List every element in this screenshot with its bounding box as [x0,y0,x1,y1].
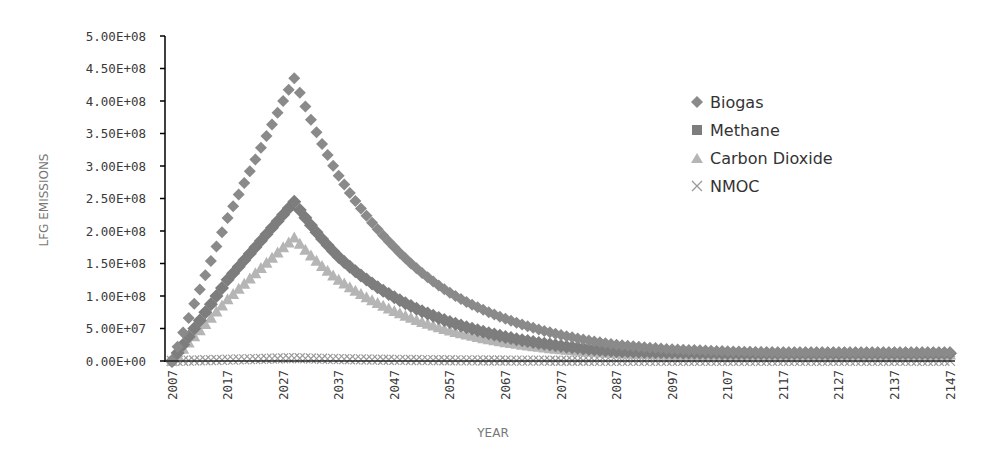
y-tick-label: 3.50E+08 [86,126,146,141]
data-point [227,200,239,212]
y-axis-title: LFG EMISSIONS [37,154,51,247]
y-tick-label: 2.50E+08 [86,191,146,206]
x-tick-label: 2087 [609,370,624,400]
diamond-icon [690,95,704,109]
data-point [400,355,410,365]
data-point [272,107,284,119]
y-tick-label: 2.00E+08 [86,224,146,239]
x-ticks: 2007201720272037204720572067207720872097… [165,370,958,400]
data-point [250,354,260,364]
y-tick-label: 0.00E+00 [86,354,146,369]
data-point [200,355,210,365]
x-tick-label: 2127 [831,370,846,400]
data-point [317,354,327,364]
data-point [367,355,377,365]
data-point [306,353,316,363]
legend-item-carbon-dioxide: Carbon Dioxide [690,144,833,172]
data-point [406,355,416,365]
data-point [322,149,334,161]
data-point [395,355,405,365]
legend-item-methane: Methane [690,116,833,144]
data-point [210,241,222,253]
data-point [217,355,227,365]
y-tick-label: 5.00E+07 [86,321,146,336]
x-tick-label: 2047 [387,370,402,400]
x-tick-label: 2037 [331,370,346,400]
plot-markers [165,72,957,368]
data-point [283,84,295,96]
data-point [362,354,372,364]
data-point [211,355,221,365]
data-point [256,354,266,364]
data-point [239,354,249,364]
x-axis-title: YEAR [476,426,508,440]
legend-label: NMOC [710,177,760,196]
data-point [183,312,195,324]
y-tick-label: 1.50E+08 [86,256,146,271]
data-point [339,354,349,364]
data-point [206,355,216,365]
data-point [323,354,333,364]
square-icon [690,123,704,137]
x-tick-label: 2077 [554,370,569,400]
data-point [310,126,322,138]
data-point [199,269,211,281]
data-point [373,355,383,365]
x-icon [690,179,704,193]
data-point [350,354,360,364]
x-tick-label: 2057 [442,370,457,400]
data-point [255,142,267,154]
x-tick-label: 2117 [776,370,791,400]
data-point [384,355,394,365]
data-point [228,355,238,365]
data-point [423,355,433,365]
data-point [277,95,289,107]
data-point [300,353,310,363]
emissions-chart: 0.00E+005.00E+071.00E+081.50E+082.00E+08… [0,0,991,460]
data-point [273,354,283,364]
data-point [233,189,245,201]
y-tick-label: 4.00E+08 [86,94,146,109]
data-point [249,154,261,166]
y-tick-label: 3.00E+08 [86,159,146,174]
x-tick-label: 2027 [276,370,291,400]
data-point [188,298,200,310]
data-point [417,355,427,365]
x-tick-label: 2107 [720,370,735,400]
x-tick-label: 2067 [498,370,513,400]
data-point [245,354,255,364]
data-point [356,354,366,364]
legend-label: Biogas [710,93,764,112]
x-tick-label: 2007 [165,370,180,400]
y-tick-label: 1.00E+08 [86,289,146,304]
data-point [194,284,206,296]
data-point [278,353,288,363]
data-point [334,354,344,364]
series-methane [165,195,957,368]
data-point [434,355,444,365]
legend-label: Methane [710,121,780,140]
data-point [327,160,339,172]
data-point [311,354,321,364]
data-point [288,72,300,84]
data-point [205,255,217,267]
data-point [412,355,422,365]
y-ticks: 0.00E+005.00E+071.00E+081.50E+082.00E+08… [86,29,165,369]
data-point [266,118,278,130]
data-point [238,177,250,189]
triangle-icon [690,151,704,165]
data-point [223,355,233,365]
data-point [378,355,388,365]
data-point [267,354,277,364]
legend-label: Carbon Dioxide [710,149,833,168]
data-point [299,101,311,113]
data-point [305,114,317,126]
x-tick-label: 2147 [943,370,958,400]
x-tick-label: 2017 [220,370,235,400]
data-point [428,355,438,365]
data-point [345,354,355,364]
data-point [216,226,228,238]
data-point [389,355,399,365]
data-point [439,355,449,365]
y-tick-label: 4.50E+08 [86,61,146,76]
